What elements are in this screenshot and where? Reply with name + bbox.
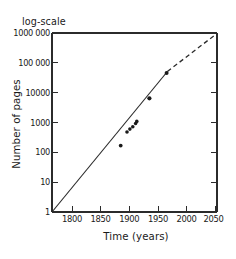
data-point <box>165 71 169 75</box>
y-tick-label-100: 100 <box>35 147 50 157</box>
y-tick-label-1000000: 1000 000 <box>13 28 50 38</box>
data-point <box>135 120 139 124</box>
x-axis-ticks <box>72 206 215 212</box>
data-points <box>119 71 169 148</box>
data-point <box>119 144 123 148</box>
data-point <box>147 96 151 100</box>
log-scale-line-chart: log-scale 1000 000 <box>0 0 236 259</box>
trend-line-dashed <box>167 34 216 72</box>
y-axis-ticks <box>52 33 58 212</box>
y-tick-label-10: 10 <box>40 177 50 187</box>
x-tick-label-1800: 1800 <box>62 214 82 224</box>
x-tick-label-1850: 1850 <box>91 214 111 224</box>
x-tick-label-2050: 2050 <box>203 214 223 224</box>
x-tick-label-1900: 1900 <box>119 214 139 224</box>
x-tick-labels: 1800 1850 1900 1950 2000 2050 <box>62 214 224 224</box>
chart-title: log-scale <box>22 16 66 27</box>
y-tick-label-100000: 100 000 <box>18 58 50 68</box>
right-axis-ticks <box>211 63 217 182</box>
y-tick-label-1: 1 <box>45 207 50 217</box>
x-tick-label-2000: 2000 <box>177 214 197 224</box>
trend-line-solid <box>52 72 167 213</box>
x-axis-title: Time (years) <box>102 231 168 242</box>
y-axis-title: Number of pages <box>11 79 22 168</box>
y-tick-label-1000: 1000 <box>30 118 50 128</box>
chart-figure: log-scale 1000 000 <box>0 0 236 259</box>
x-tick-label-1950: 1950 <box>148 214 168 224</box>
y-tick-label-10000: 10000 <box>25 88 50 98</box>
data-point <box>125 130 129 134</box>
data-point <box>131 125 135 129</box>
data-point <box>128 127 132 131</box>
